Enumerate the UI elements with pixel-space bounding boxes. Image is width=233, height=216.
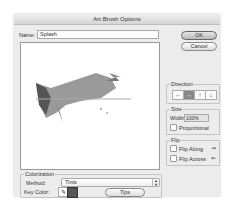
- method-value: Tints: [65, 179, 77, 185]
- eyedropper-icon: ✎: [61, 189, 66, 195]
- name-input[interactable]: Splash: [37, 30, 159, 39]
- flip-title: Flip: [170, 137, 181, 143]
- flip-across-label: Flip Across: [179, 156, 206, 162]
- cancel-button[interactable]: Cancel: [181, 42, 217, 51]
- flip-along-label: Flip Along: [179, 146, 203, 152]
- name-label: Name:: [19, 32, 35, 38]
- flip-along-icon: ⇝: [211, 145, 216, 151]
- direction-down-button[interactable]: ↓: [205, 90, 217, 100]
- arrow-right-icon: →: [186, 92, 192, 98]
- flip-across-option[interactable]: Flip Across: [170, 155, 206, 162]
- method-label: Method:: [26, 180, 46, 186]
- size-group: Size Width: 100% Proportional: [166, 109, 220, 135]
- key-color-label: Key Color:: [24, 189, 50, 195]
- select-arrows-icon: ▲▼: [152, 179, 159, 186]
- proportional-label: Proportional: [179, 125, 209, 131]
- flip-across-checkbox[interactable]: [170, 155, 177, 162]
- flip-along-option[interactable]: Flip Along: [170, 145, 203, 152]
- arrow-left-icon: ←: [175, 92, 181, 98]
- proportional-option[interactable]: Proportional: [170, 124, 209, 131]
- dialog-title: Art Brush Options: [14, 14, 220, 25]
- flip-across-icon: ⇜: [211, 155, 216, 161]
- proportional-checkbox[interactable]: [170, 124, 177, 131]
- flip-along-checkbox[interactable]: [170, 145, 177, 152]
- width-input[interactable]: 100%: [184, 114, 209, 122]
- colorization-title: Colorization: [24, 171, 55, 177]
- splash-brush-artwork: [21, 43, 159, 169]
- art-brush-options-dialog: Art Brush Options Name: Splash OK Cancel…: [14, 14, 220, 196]
- direction-title: Direction: [170, 81, 194, 87]
- method-select[interactable]: Tints ▲▼: [61, 178, 160, 187]
- arrow-up-icon: ↑: [199, 92, 202, 98]
- arrow-down-icon: ↓: [210, 92, 213, 98]
- colorization-group: Colorization Method: Tints ▲▼ Key Color:…: [20, 174, 162, 198]
- key-color-swatch[interactable]: [67, 187, 78, 198]
- direction-group: Direction ← → ↑ ↓: [166, 84, 220, 104]
- tips-button[interactable]: Tips: [105, 188, 145, 197]
- flip-group: Flip Flip Along ⇝ Flip Across ⇜: [166, 140, 220, 166]
- ok-button[interactable]: OK: [181, 31, 217, 40]
- brush-preview: [20, 42, 160, 170]
- size-title: Size: [170, 106, 183, 112]
